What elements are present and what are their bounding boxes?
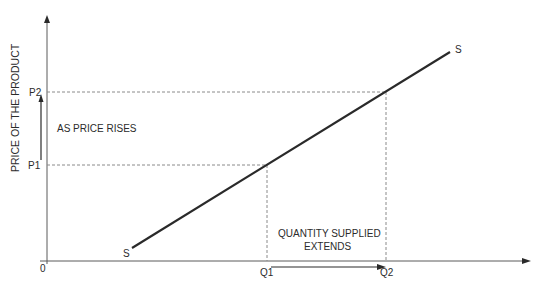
supply-curve (132, 52, 450, 248)
supply-high-label: S (455, 44, 462, 55)
origin-label: 0 (40, 263, 46, 274)
q2-label: Q2 (380, 267, 394, 278)
quantity-supplied-annotation-line2: EXTENDS (304, 241, 352, 252)
quantity-supplied-annotation-line1: QUANTITY SUPPLIED (278, 228, 381, 239)
y-axis-label: PRICE OF THE PRODUCT (9, 43, 21, 172)
q1-label: Q1 (260, 267, 274, 278)
supply-low-label: S (123, 248, 130, 259)
p1-label: P1 (28, 160, 41, 171)
supply-curve-diagram: PRICE OF THE PRODUCT P2 P1 0 Q1 Q2 S S A… (0, 0, 538, 289)
p2-label: P2 (29, 87, 42, 98)
x-axis-arrow-icon (522, 258, 531, 264)
price-rises-annotation: AS PRICE RISES (57, 123, 137, 134)
y-axis-arrow-icon (44, 15, 50, 23)
